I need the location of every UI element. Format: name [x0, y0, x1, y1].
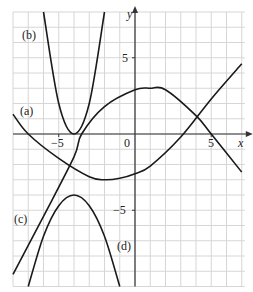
tick-label-origin: 0: [124, 137, 130, 149]
graph-figure: y x 5 −5 −5 0 5 (a) (b) (c) (d): [0, 0, 253, 292]
tick-label-x-5: 5: [208, 137, 214, 149]
curve-label-c: (c): [14, 213, 27, 225]
tick-label-x-neg5: −5: [51, 137, 64, 149]
tick-label-y-neg5: −5: [113, 204, 126, 216]
y-axis-arrow-icon: [132, 6, 138, 13]
y-axis-label: y: [127, 8, 132, 20]
x-axis-arrow-icon: [246, 131, 253, 137]
curve-label-b: (b): [22, 29, 36, 41]
tick-label-y-5: 5: [122, 52, 128, 64]
curve-a: [13, 64, 242, 180]
x-axis-label: x: [238, 137, 243, 149]
curve-label-d: (d): [117, 240, 131, 252]
curve-label-a: (a): [20, 105, 33, 117]
